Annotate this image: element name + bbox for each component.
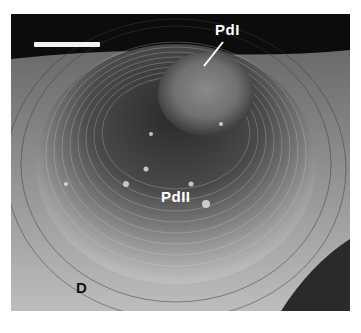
shell-surface-image — [11, 14, 350, 311]
scale-bar — [34, 42, 100, 47]
micrograph-frame: PdI PdII D — [11, 14, 350, 311]
label-pd2: PdII — [161, 188, 191, 205]
label-d: D — [76, 279, 87, 296]
label-pd1: PdI — [215, 21, 240, 38]
